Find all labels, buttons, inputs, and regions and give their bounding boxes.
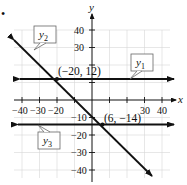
x-tick-label: −30 [30, 105, 46, 116]
x-tick-label: −40 [12, 105, 28, 116]
y-tick-label: −30 [71, 147, 87, 158]
intersection-point-a [55, 77, 59, 81]
figure-marker: • [1, 7, 5, 21]
y-tick-label: 40 [74, 25, 84, 36]
x-tick-label: 40 [157, 105, 167, 116]
point-label-a: (−20, 12) [58, 65, 101, 78]
callout-y1: y1 [130, 54, 153, 79]
coordinate-plane-chart: • x y [0, 0, 187, 185]
y-tick-label: −10 [71, 112, 87, 123]
y-tick-label: −20 [71, 130, 87, 141]
point-label-b: (6, −14) [104, 112, 141, 125]
x-tick-label: 30 [140, 105, 150, 116]
x-axis-label: x [177, 93, 183, 105]
y-tick-label: −40 [71, 165, 87, 176]
y-tick-label: 30 [74, 42, 84, 53]
x-tick-label: −20 [48, 105, 64, 116]
callout-y2: y2 [34, 26, 56, 50]
y-axis-label: y [88, 1, 94, 13]
